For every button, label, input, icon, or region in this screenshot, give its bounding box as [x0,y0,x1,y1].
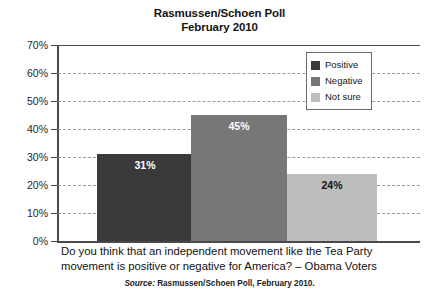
y-tick-label-60: 60% [0,68,48,78]
caption-line-1: Do you think that an independent movemen… [61,244,420,259]
y-tick-label-50: 50% [0,96,48,106]
y-tick-label-0: 0% [0,236,48,246]
chart-title: Rasmussen/Schoen Poll February 2010 [0,6,439,34]
bar-value-label-not-sure: 24% [287,180,377,191]
y-tick-20 [51,185,58,186]
source-prefix: Source: [124,279,154,288]
y-tick-30 [51,157,58,158]
legend-label-negative: Negative [325,76,363,86]
y-tick-label-10: 10% [0,208,48,218]
chart-title-line-1: Rasmussen/Schoen Poll [0,6,439,20]
y-tick-10 [51,213,58,214]
legend-swatch-negative-icon [311,77,320,86]
y-tick-label-40: 40% [0,124,48,134]
bar-value-label-positive: 31% [97,160,193,171]
caption-line-2: movement is positive or negative for Ame… [61,259,420,274]
bar-not-sure: 24% [287,174,377,241]
legend-label-positive: Positive [325,60,358,70]
y-tick-50 [51,101,58,102]
bar-positive: 31% [97,154,193,241]
legend-item-not-sure: Not sure [311,89,367,105]
chart-title-line-2: February 2010 [0,20,439,34]
y-tick-label-70: 70% [0,40,48,50]
chart-source: Source: Rasmussen/Schoen Poll, February … [0,279,439,289]
chart-legend: Positive Negative Not sure [306,52,372,110]
legend-swatch-not-sure-icon [311,93,320,102]
y-tick-label-30: 30% [0,152,48,162]
y-tick-40 [51,129,58,130]
y-tick-60 [51,73,58,74]
legend-item-negative: Negative [311,73,367,89]
legend-label-not-sure: Not sure [325,92,361,102]
y-tick-label-20: 20% [0,180,48,190]
poll-bar-chart: Rasmussen/Schoen Poll February 2010 70%6… [0,0,439,298]
y-tick-70 [51,45,58,46]
chart-caption: Do you think that an independent movemen… [57,242,420,276]
bar-negative: 45% [191,115,287,241]
source-text: Rasmussen/Schoen Poll, February 2010. [155,279,315,288]
legend-item-positive: Positive [311,57,367,73]
bar-value-label-negative: 45% [191,121,287,132]
legend-swatch-positive-icon [311,61,320,70]
